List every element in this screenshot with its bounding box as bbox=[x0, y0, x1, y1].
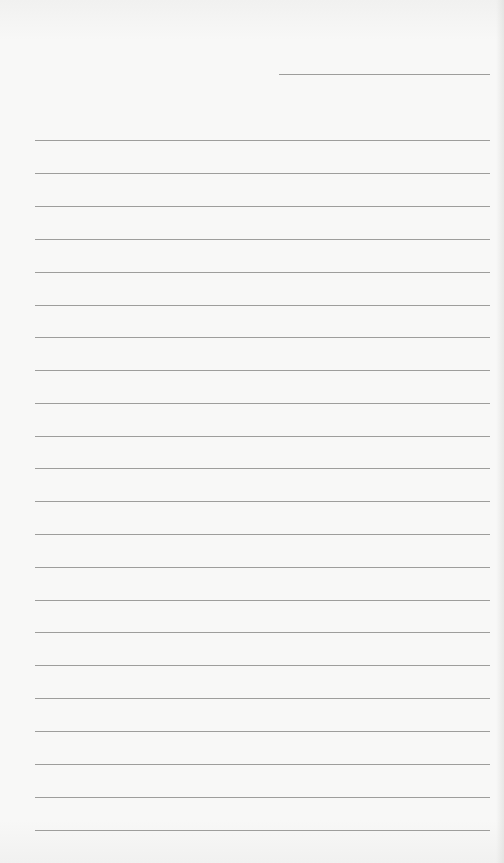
ruled-line bbox=[35, 698, 490, 699]
ruled-line bbox=[35, 337, 490, 338]
ruled-line bbox=[35, 731, 490, 732]
ruled-line bbox=[35, 665, 490, 666]
ruled-line bbox=[35, 797, 490, 798]
ruled-line bbox=[35, 567, 490, 568]
ruled-line bbox=[35, 206, 490, 207]
ruled-line bbox=[35, 764, 490, 765]
ruled-line bbox=[35, 534, 490, 535]
ruled-line bbox=[35, 436, 490, 437]
ruled-line bbox=[35, 305, 490, 306]
ruled-line bbox=[35, 173, 490, 174]
ruled-line bbox=[35, 272, 490, 273]
ruled-line bbox=[35, 468, 490, 469]
ruled-line bbox=[35, 600, 490, 601]
name-line bbox=[279, 74, 490, 75]
ruled-line bbox=[35, 239, 490, 240]
ruled-line bbox=[35, 403, 490, 404]
ruled-line bbox=[35, 632, 490, 633]
ruled-line bbox=[35, 370, 490, 371]
lined-paper-sheet bbox=[0, 0, 504, 863]
ruled-line bbox=[35, 501, 490, 502]
ruled-line bbox=[35, 140, 490, 141]
ruled-line bbox=[35, 830, 490, 831]
